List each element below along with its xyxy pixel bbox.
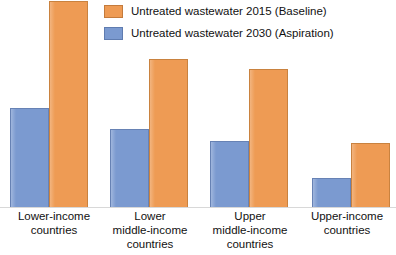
bar-pair bbox=[10, 0, 88, 208]
category-label-line: countries bbox=[298, 223, 396, 237]
category-label-lower-income: Lower-income countries bbox=[0, 209, 108, 237]
category-label-upper-income: Upper-income countries bbox=[298, 209, 396, 237]
category-label-line: countries bbox=[96, 237, 204, 251]
bar-aspiration-lower-middle-income[interactable] bbox=[110, 129, 149, 207]
x-axis-category-labels: Lower-income countries Lower middle-inco… bbox=[0, 209, 396, 255]
bar-baseline-lower-income[interactable] bbox=[49, 1, 88, 207]
category-label-line: Upper-income bbox=[298, 209, 396, 223]
legend-label-aspiration: Untreated wastewater 2030 (Aspiration) bbox=[131, 27, 334, 40]
legend-swatch-aspiration-icon bbox=[104, 27, 123, 40]
bar-aspiration-upper-middle-income[interactable] bbox=[210, 141, 249, 207]
bar-group-lower-income bbox=[10, 0, 88, 208]
bar-baseline-upper-middle-income[interactable] bbox=[249, 69, 288, 207]
category-label-line: middle-income bbox=[196, 223, 304, 237]
wastewater-bar-chart: Untreated wastewater 2015 (Baseline) Unt… bbox=[0, 0, 396, 255]
category-label-line: Lower-income bbox=[0, 209, 108, 223]
category-label-lower-middle-income: Lower middle-income countries bbox=[96, 209, 204, 251]
bar-aspiration-upper-income[interactable] bbox=[312, 178, 351, 207]
category-label-upper-middle-income: Upper middle-income countries bbox=[196, 209, 304, 251]
legend-label-baseline: Untreated wastewater 2015 (Baseline) bbox=[131, 5, 327, 18]
legend-swatch-baseline-icon bbox=[104, 5, 123, 18]
legend-item-baseline: Untreated wastewater 2015 (Baseline) bbox=[104, 3, 384, 20]
chart-legend: Untreated wastewater 2015 (Baseline) Unt… bbox=[104, 3, 384, 47]
category-label-line: countries bbox=[196, 237, 304, 251]
bar-baseline-upper-income[interactable] bbox=[351, 143, 390, 207]
category-label-line: countries bbox=[0, 223, 108, 237]
category-label-line: middle-income bbox=[96, 223, 204, 237]
bar-aspiration-lower-income[interactable] bbox=[10, 108, 49, 207]
bar-baseline-lower-middle-income[interactable] bbox=[149, 59, 188, 207]
legend-item-aspiration: Untreated wastewater 2030 (Aspiration) bbox=[104, 25, 384, 42]
category-label-line: Upper bbox=[196, 209, 304, 223]
category-label-line: Lower bbox=[96, 209, 204, 223]
x-axis-line bbox=[0, 207, 396, 208]
